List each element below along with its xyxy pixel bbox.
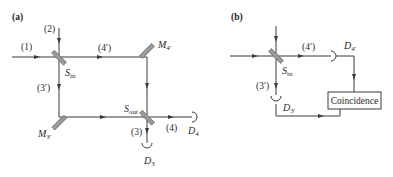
arrow-icon xyxy=(298,54,304,58)
detector-d3p-icon xyxy=(271,96,281,101)
arrow-icon xyxy=(97,55,103,59)
arm-label-3p: (3′) xyxy=(37,83,50,94)
mirror-3p-label: M3′ xyxy=(37,128,52,141)
detector-d4-label: D4 xyxy=(187,125,199,138)
arrow-icon xyxy=(168,115,174,119)
arrow-icon xyxy=(57,38,61,44)
figure-canvas: (a) (1) (2) (4′) (3′) (4) (3) Sin Sout xyxy=(0,0,393,177)
mirror-4p-label: M4′ xyxy=(157,39,172,52)
detector-d3-icon xyxy=(142,143,152,148)
arrow-icon xyxy=(274,36,278,42)
arrow-icon xyxy=(100,115,106,119)
port-label-1: (1) xyxy=(21,42,32,53)
port-label-2: (2) xyxy=(44,24,55,35)
arrow-icon xyxy=(57,84,61,90)
coincidence-label: Coincidence xyxy=(331,96,378,106)
splitter-in-label: Sin xyxy=(282,65,293,78)
arrow-icon xyxy=(318,114,324,118)
port-label-4: (4) xyxy=(166,123,177,134)
splitter-in-label: Sin xyxy=(65,67,76,80)
panel-b-label: (b) xyxy=(231,12,243,23)
panel-b: (b) Coincidence (4′) (3′) Sin D4′ D3′ xyxy=(230,12,381,118)
arm-label-3p: (3′) xyxy=(256,81,269,92)
arm-label-4p: (4′) xyxy=(98,43,111,54)
arm-label-4p: (4′) xyxy=(302,42,315,53)
panel-a: (a) (1) (2) (4′) (3′) (4) (3) Sin Sout xyxy=(12,12,199,168)
detector-d4p-icon xyxy=(331,51,336,61)
arrow-icon xyxy=(252,54,258,58)
panel-a-label: (a) xyxy=(12,12,23,23)
detector-d4p-label: D4′ xyxy=(343,40,357,53)
arrow-icon xyxy=(352,74,356,80)
detector-d3p-label: D3′ xyxy=(282,102,296,115)
detector-d3-label: D3 xyxy=(143,155,155,168)
port-label-3: (3) xyxy=(131,127,142,138)
mirror-4p-icon xyxy=(140,44,155,59)
arrow-icon xyxy=(145,83,149,89)
arrow-icon xyxy=(145,128,149,134)
arrow-icon xyxy=(274,83,278,89)
arrow-icon xyxy=(34,55,40,59)
detector-d4-icon xyxy=(192,112,197,122)
splitter-out-label: Sout xyxy=(124,103,138,116)
